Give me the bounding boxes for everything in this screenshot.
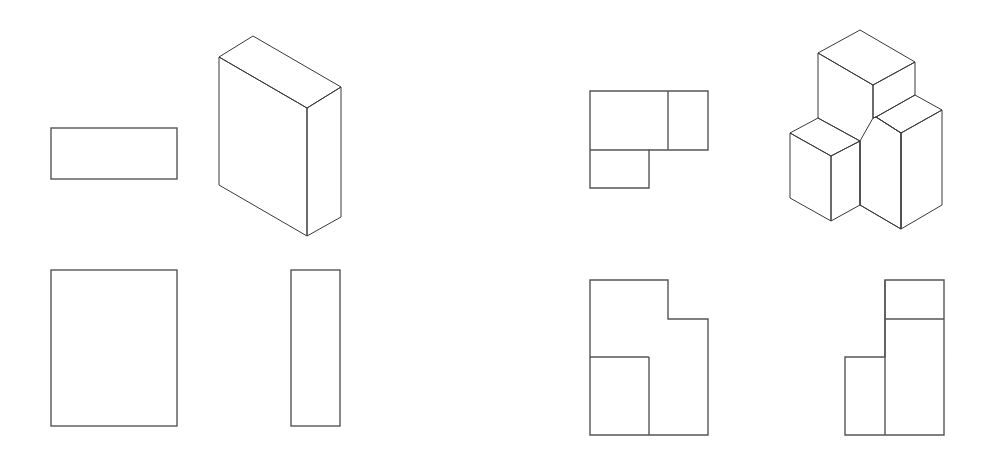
object-1-top-view — [51, 128, 177, 179]
object-1-iso-top-face — [219, 36, 341, 108]
object-2-front-view — [590, 280, 708, 435]
object-2-group — [590, 30, 944, 435]
object-2-iso-middle-front — [860, 117, 901, 229]
object-2-top-view — [590, 91, 708, 188]
projection-diagram — [0, 0, 993, 469]
object-1-group — [51, 36, 341, 426]
object-1-side-view — [291, 270, 340, 426]
object-2-iso-step-top — [876, 95, 942, 133]
object-2-side-view — [845, 280, 944, 435]
object-1-isometric-view — [219, 36, 341, 236]
object-2-iso-small-right — [831, 141, 860, 221]
object-2-iso-tall-top — [818, 30, 915, 85]
object-2-isometric-view — [790, 30, 942, 229]
object-2-iso-tall-right — [873, 62, 915, 118]
object-2-iso-small-left — [790, 133, 831, 221]
object-1-iso-left-face — [219, 57, 307, 236]
object-2-iso-step-right — [901, 110, 942, 229]
object-1-front-view — [51, 270, 177, 426]
object-2-iso-small-top — [790, 118, 860, 156]
object-1-iso-right-face — [307, 87, 341, 236]
